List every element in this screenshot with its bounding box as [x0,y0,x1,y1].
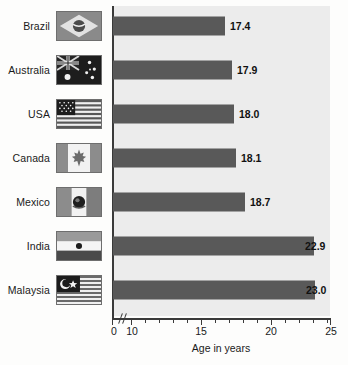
x-tick-25 [330,318,331,325]
bar-usa [113,105,234,124]
x-tick-label-10: 10 [126,325,138,337]
flag-brazil-icon [56,11,102,41]
x-tick-17 [229,318,230,323]
chart-row-brazil: Brazil 17.4 [0,4,348,48]
chart-row-mexico: Mexico 18.7 [0,180,348,224]
x-tick-label-20: 20 [265,325,277,337]
flag-australia-icon [56,55,102,85]
bar-value-malaysia: 23.0 [306,284,326,296]
bar-value-brazil: 17.4 [230,20,250,32]
x-tick-19 [257,318,258,323]
chart-row-malaysia: Malaysia 23.0 [0,268,348,312]
x-tick-12 [159,318,160,323]
x-axis-title: Age in years [112,342,330,354]
x-tick-0 [112,318,113,325]
flag-mexico-icon [56,187,102,217]
x-tick-11 [145,318,146,323]
bar-value-australia: 17.9 [237,64,257,76]
x-tick-23 [313,318,314,323]
bar-mexico [113,193,245,212]
category-label-india: India [0,240,50,252]
x-tick-13 [173,318,174,323]
chart-row-india: India 22.9 [0,224,348,268]
category-label-mexico: Mexico [0,196,50,208]
flag-malaysia-icon [56,275,102,305]
x-tick-10 [131,318,132,325]
category-label-malaysia: Malaysia [0,284,50,296]
bar-australia [113,61,232,80]
bar-value-india: 22.9 [305,240,325,252]
flag-usa-icon [56,99,102,129]
x-tick-label-15: 15 [195,325,207,337]
category-label-brazil: Brazil [0,20,50,32]
x-tick-16 [215,318,216,323]
bar-india [113,237,314,256]
chart-row-usa: USA [0,92,348,136]
axis-break-icon [119,313,128,324]
bar-value-usa: 18.0 [239,108,259,120]
bar-value-mexico: 18.7 [250,196,270,208]
category-label-usa: USA [0,108,50,120]
x-tick-20 [271,318,272,325]
bar-malaysia [113,281,315,300]
x-tick-21 [285,318,286,323]
x-tick-24 [327,318,328,323]
category-label-canada: Canada [0,152,50,164]
x-tick-18 [243,318,244,323]
bar-brazil [113,17,225,36]
bar-value-canada: 18.1 [241,152,261,164]
category-label-australia: Australia [0,64,50,76]
bar-chart: Brazil 17.4 Australia [0,0,348,365]
x-tick-label-0: 0 [111,325,117,337]
flag-canada-icon [56,143,102,173]
x-tick-label-25: 25 [325,325,337,337]
chart-row-australia: Australia 17.9 [0,48,348,92]
bar-canada [113,149,236,168]
x-tick-14 [187,318,188,323]
chart-row-canada: Canada 18.1 [0,136,348,180]
flag-india-icon [56,231,102,261]
x-tick-15 [201,318,202,325]
x-tick-22 [299,318,300,323]
